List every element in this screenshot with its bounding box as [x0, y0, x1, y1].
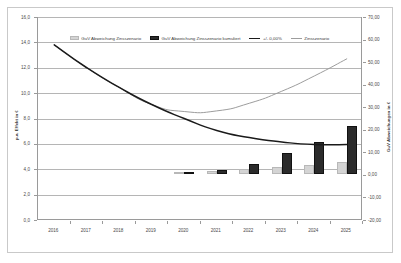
chart-container: p.a. Effekt in € GuV Abweichungen in € 1… — [0, 0, 401, 263]
legend-line-swatch-icon — [249, 38, 260, 39]
left-axis-title: p.a. Effekt in € — [14, 110, 19, 140]
legend-item-3[interactable]: Zinsszenario — [291, 36, 329, 41]
line-baseline — [54, 45, 347, 145]
chart-legend: GuV Abweichung ZinsszenarioGuV Abweichun… — [37, 33, 362, 43]
lines-layer — [38, 17, 363, 220]
legend-label: GuV Abweichung Zinsszenario — [81, 36, 141, 41]
plot-area — [37, 17, 362, 220]
legend-item-2[interactable]: +/- 0,00% — [249, 36, 281, 41]
legend-label: Zinsszenario — [304, 36, 329, 41]
legend-label: +/- 0,00% — [263, 36, 282, 41]
legend-item-1[interactable]: GuV Abweichung Zinsszenario kumuliert — [150, 36, 240, 41]
right-axis-title: GuV Abweichungen in € — [386, 102, 391, 152]
legend-label: GuV Abweichung Zinsszenario kumuliert — [162, 36, 241, 41]
legend-item-0[interactable]: GuV Abweichung Zinsszenario — [70, 36, 141, 41]
legend-line-swatch-icon — [291, 38, 302, 39]
line-zinsszenario — [54, 45, 347, 113]
legend-bar-swatch-icon — [70, 36, 79, 40]
legend-bar-swatch-icon — [150, 36, 159, 40]
